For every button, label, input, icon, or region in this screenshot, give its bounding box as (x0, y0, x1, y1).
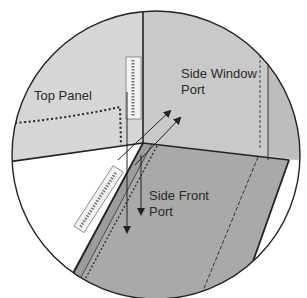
side-front-port-label-line1: Side Front (149, 188, 209, 204)
side-front-port-label-line2: Port (149, 204, 209, 220)
side-window-port-label: Side Window Port (181, 66, 257, 98)
side-front-port-label: Side Front Port (149, 188, 209, 220)
top-panel-region (0, 0, 143, 163)
top-panel-label: Top Panel (34, 88, 92, 104)
circular-detail-view: Top Panel Side Window Port Side Front Po… (0, 0, 307, 298)
side-window-port-label-line2: Port (181, 82, 257, 98)
diagram-canvas (0, 0, 307, 298)
side-window-port-label-line1: Side Window (181, 66, 257, 82)
